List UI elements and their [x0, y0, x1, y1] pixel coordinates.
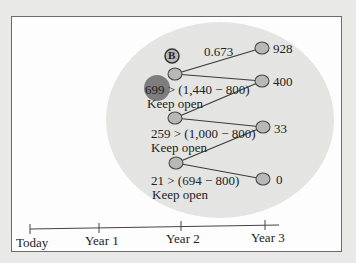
timeline-label-year1: Year 1	[85, 234, 119, 247]
node-year3-33	[256, 121, 270, 133]
decision-action-3: Keep open	[152, 188, 208, 201]
node-year2-down	[169, 157, 183, 169]
decision-rule-2: 259 > (1,000 − 800)	[151, 127, 256, 140]
timeline-axis	[30, 220, 279, 234]
node-year3-928	[255, 42, 269, 54]
decision-action-1: Keep open	[147, 97, 203, 110]
terminal-value-1: 928	[273, 42, 293, 55]
timeline-label-today: Today	[16, 236, 48, 249]
terminal-value-2: 400	[273, 75, 293, 88]
node-year3-0	[256, 173, 270, 185]
timeline-label-year3: Year 3	[251, 231, 285, 244]
decision-rule-1: 699 > (1,440 − 800)	[145, 83, 250, 96]
terminal-value-4: 0	[276, 173, 283, 186]
branch-probability: 0.673	[204, 45, 233, 58]
node-year3-400	[255, 75, 269, 87]
node-year2-up	[168, 68, 182, 80]
terminal-value-3: 33	[274, 122, 287, 135]
timeline-label-year2: Year 2	[166, 232, 200, 245]
decision-action-2: Keep open	[151, 141, 207, 154]
decision-rule-3: 21 > (694 − 800)	[151, 174, 239, 187]
node-year2-mid	[168, 112, 182, 124]
node-b-label: B	[168, 50, 175, 61]
